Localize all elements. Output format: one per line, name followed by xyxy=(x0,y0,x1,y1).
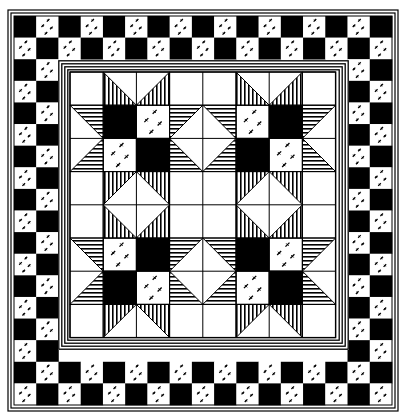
checker-dotted xyxy=(370,254,393,276)
checker-dotted xyxy=(36,189,59,211)
checker-black xyxy=(81,383,104,405)
checker-dotted xyxy=(36,59,59,81)
center-black-square xyxy=(136,138,169,171)
checker-dotted xyxy=(236,383,259,405)
checker-black xyxy=(370,275,393,297)
checker-dotted xyxy=(125,16,148,38)
checker-dotted xyxy=(325,383,348,405)
checker-black xyxy=(36,167,59,189)
checker-dotted xyxy=(36,275,59,297)
checker-black xyxy=(14,362,37,384)
checker-dotted xyxy=(370,81,393,103)
center-black-square xyxy=(236,138,269,171)
checker-dotted xyxy=(36,319,59,341)
checker-black xyxy=(36,211,59,233)
checker-black xyxy=(36,383,59,405)
checker-dotted xyxy=(147,383,170,405)
checker-dotted xyxy=(325,38,348,60)
checker-dotted xyxy=(81,16,104,38)
checker-black xyxy=(370,59,393,81)
checker-dotted xyxy=(14,38,37,60)
center-black-square xyxy=(269,271,302,304)
checker-dotted xyxy=(214,362,237,384)
checker-dotted xyxy=(370,124,393,146)
checker-black xyxy=(370,189,393,211)
checker-black xyxy=(370,319,393,341)
center-dotted-square xyxy=(236,271,269,304)
checker-black xyxy=(259,38,282,60)
checker-black xyxy=(348,383,371,405)
checker-dotted xyxy=(192,383,215,405)
center-black-square xyxy=(269,105,302,138)
checker-black xyxy=(236,16,259,38)
checker-dotted xyxy=(14,124,37,146)
checker-black xyxy=(14,59,37,81)
quilt-illustration xyxy=(0,0,406,418)
center-dotted-square xyxy=(103,238,136,271)
checker-dotted xyxy=(259,362,282,384)
checker-dotted xyxy=(14,254,37,276)
checker-dotted xyxy=(370,383,393,405)
checker-black xyxy=(14,189,37,211)
checker-dotted xyxy=(348,16,371,38)
checker-dotted xyxy=(14,167,37,189)
checker-dotted xyxy=(58,38,81,60)
checker-dotted xyxy=(348,59,371,81)
center-dotted-square xyxy=(269,138,302,171)
checker-black xyxy=(14,146,37,168)
checker-dotted xyxy=(348,189,371,211)
checker-black xyxy=(14,319,37,341)
checker-black xyxy=(147,16,170,38)
center-black-square xyxy=(103,105,136,138)
checker-black xyxy=(192,362,215,384)
checker-black xyxy=(325,16,348,38)
checker-dotted xyxy=(348,102,371,124)
checker-dotted xyxy=(14,211,37,233)
checker-black xyxy=(125,38,148,60)
checker-black xyxy=(36,38,59,60)
checker-dotted xyxy=(103,383,126,405)
checker-dotted xyxy=(192,38,215,60)
checker-black xyxy=(370,16,393,38)
checker-dotted xyxy=(370,340,393,362)
checker-black xyxy=(348,340,371,362)
checker-black xyxy=(214,383,237,405)
checker-dotted xyxy=(58,383,81,405)
checker-dotted xyxy=(259,16,282,38)
checker-black xyxy=(281,362,304,384)
checker-black xyxy=(348,124,371,146)
checker-black xyxy=(14,16,37,38)
checker-black xyxy=(36,297,59,319)
checker-black xyxy=(348,211,371,233)
checker-dotted xyxy=(370,38,393,60)
checker-dotted xyxy=(370,167,393,189)
checker-dotted xyxy=(36,232,59,254)
center-black-square xyxy=(103,271,136,304)
checker-dotted xyxy=(281,38,304,60)
checker-dotted xyxy=(348,232,371,254)
checker-dotted xyxy=(370,297,393,319)
checker-black xyxy=(103,362,126,384)
checker-dotted xyxy=(103,38,126,60)
center-black-square xyxy=(136,238,169,271)
checker-dotted xyxy=(348,362,371,384)
checker-dotted xyxy=(81,362,104,384)
checker-dotted xyxy=(370,211,393,233)
checker-black xyxy=(36,81,59,103)
checker-black xyxy=(14,232,37,254)
checker-dotted xyxy=(14,340,37,362)
checker-dotted xyxy=(348,275,371,297)
checker-black xyxy=(36,340,59,362)
checker-black xyxy=(214,38,237,60)
checker-dotted xyxy=(348,146,371,168)
checker-black xyxy=(236,362,259,384)
checker-dotted xyxy=(36,362,59,384)
checker-dotted xyxy=(125,362,148,384)
checker-black xyxy=(170,383,193,405)
checker-black xyxy=(348,81,371,103)
checker-black xyxy=(348,167,371,189)
checker-dotted xyxy=(236,38,259,60)
checker-dotted xyxy=(170,362,193,384)
center-dotted-square xyxy=(103,138,136,171)
checker-dotted xyxy=(147,38,170,60)
